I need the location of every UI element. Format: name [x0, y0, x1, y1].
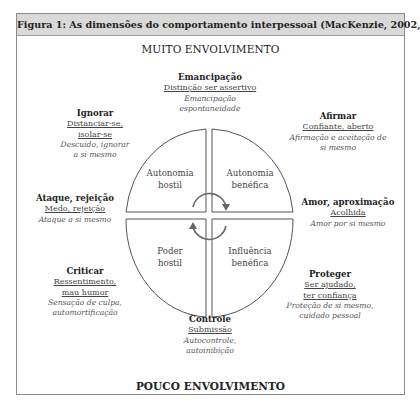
group-amor: Amor, aproximação Acolhida Amor por si m…: [296, 196, 400, 229]
group-proteger: Proteger Ser ajudado, ter confiança Prot…: [282, 268, 378, 321]
group-title: Emancipação: [150, 71, 270, 83]
group-italic: a si mesmo: [50, 150, 140, 160]
group-title: Controle: [160, 313, 260, 325]
quadrant-bottom-right-label: Influênciabenéfica: [218, 245, 282, 269]
group-underlined: Confiante, aberto: [280, 122, 396, 133]
group-underlined: ter confiança: [282, 291, 378, 302]
group-italic: autoinibição: [160, 346, 260, 356]
group-underlined: isolar-se: [50, 130, 140, 141]
group-italic: Autocontrole,: [160, 336, 260, 346]
group-title: Amor, aproximação: [296, 196, 400, 208]
group-italic: Afirmação e aceitação de: [280, 133, 396, 143]
group-italic: Descuido, ignorar: [50, 140, 140, 150]
group-italic: cuidado pessoal: [282, 311, 378, 321]
quadrant-top-right-label: Autonomiabenéfica: [218, 167, 282, 191]
group-title: Afirmar: [280, 110, 396, 122]
group-underlined: Distinção ser assertivo: [150, 83, 270, 94]
cycle-arrow-bottom: [193, 226, 226, 239]
group-title: Ignorar: [50, 107, 140, 119]
group-afirmar: Afirmar Confiante, aberto Afirmação e ac…: [280, 110, 396, 153]
group-underlined: Medo, rejeição: [30, 204, 120, 215]
group-title: Proteger: [282, 268, 378, 280]
group-title: Criticar: [40, 265, 130, 277]
cycle-arrowhead-top: [222, 204, 230, 211]
quadrant-bottom-left-label: Poderhostil: [140, 245, 200, 269]
group-italic: espontaneidade: [150, 104, 270, 114]
group-italic: Ataque a si mesmo: [30, 215, 120, 225]
group-emancipacao: Emancipação Distinção ser assertivo Eman…: [150, 71, 270, 114]
group-criticar: Criticar Ressentimento, mau humor Sensaç…: [40, 265, 130, 318]
group-underlined: Acolhida: [296, 208, 400, 219]
group-italic: Emancipação: [150, 94, 270, 104]
group-title: Ataque, rejeição: [30, 192, 120, 204]
group-controle: Controle Submissão Autocontrole, autoini…: [160, 313, 260, 356]
group-underlined: Submissão: [160, 325, 260, 336]
group-italic: si mesmo: [280, 143, 396, 153]
group-underlined: Ressentimento,: [40, 277, 130, 288]
group-italic: Amor por si mesmo: [296, 219, 400, 229]
group-ignorar: Ignorar Distanciar-se, isolar-se Descuid…: [50, 107, 140, 160]
cycle-arrowhead-bottom: [189, 222, 197, 229]
group-underlined: Ser ajudado,: [282, 280, 378, 291]
group-italic: automortificação: [40, 308, 130, 318]
group-ataque: Ataque, rejeição Medo, rejeição Ataque a…: [30, 192, 120, 225]
group-italic: Sensação de culpa,: [40, 298, 130, 308]
group-underlined: mau humor: [40, 288, 130, 299]
group-underlined: Distanciar-se,: [50, 119, 140, 130]
cycle-arrow-top: [193, 194, 226, 207]
quadrant-top-left-label: Autonomiahostil: [140, 167, 200, 191]
group-italic: Proteção de si mesmo,: [282, 301, 378, 311]
